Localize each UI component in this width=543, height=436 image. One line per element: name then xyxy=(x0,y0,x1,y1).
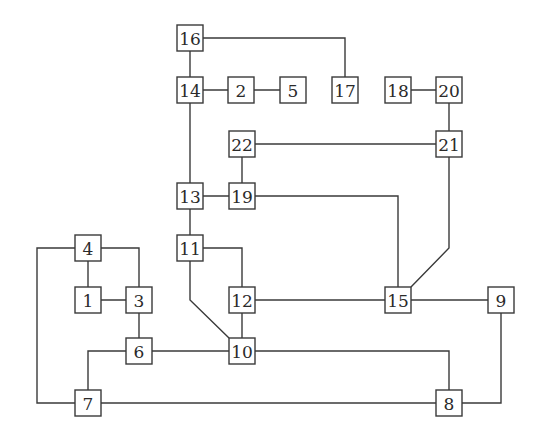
node-label: 14 xyxy=(179,81,201,101)
node-14: 14 xyxy=(177,77,203,103)
node-5: 5 xyxy=(280,77,306,103)
nodes-layer: 12345678910111213141516171819202122 xyxy=(75,25,514,416)
node-label: 5 xyxy=(288,81,299,101)
node-2: 2 xyxy=(228,77,254,103)
node-18: 18 xyxy=(385,77,411,103)
node-22: 22 xyxy=(229,131,255,157)
node-4: 4 xyxy=(75,235,101,261)
node-label: 18 xyxy=(387,81,409,101)
edge-21-15 xyxy=(411,144,449,287)
node-label: 20 xyxy=(438,81,460,101)
node-17: 17 xyxy=(332,77,358,103)
node-label: 21 xyxy=(438,135,460,155)
edge-9-8 xyxy=(449,300,501,403)
node-20: 20 xyxy=(436,77,462,103)
node-label: 19 xyxy=(231,187,253,207)
node-8: 8 xyxy=(436,390,462,416)
node-label: 2 xyxy=(236,81,247,101)
node-label: 6 xyxy=(134,342,145,362)
node-label: 9 xyxy=(496,291,507,311)
node-label: 15 xyxy=(387,291,409,311)
node-7: 7 xyxy=(75,390,101,416)
node-label: 13 xyxy=(179,187,201,207)
edge-19-15 xyxy=(242,196,398,300)
node-12: 12 xyxy=(229,287,255,313)
node-6: 6 xyxy=(126,338,152,364)
node-10: 10 xyxy=(229,338,255,364)
node-9: 9 xyxy=(488,287,514,313)
node-label: 16 xyxy=(179,29,201,49)
node-label: 8 xyxy=(444,394,455,414)
node-19: 19 xyxy=(229,183,255,209)
node-15: 15 xyxy=(385,287,411,313)
node-16: 16 xyxy=(177,25,203,51)
node-label: 7 xyxy=(83,394,94,414)
edge-16-17 xyxy=(190,38,345,90)
edge-4-7 xyxy=(37,248,88,403)
node-3: 3 xyxy=(126,287,152,313)
edges-layer xyxy=(37,38,501,403)
node-21: 21 xyxy=(436,131,462,157)
node-label: 10 xyxy=(231,342,253,362)
graph-diagram: 12345678910111213141516171819202122 xyxy=(0,0,543,436)
node-label: 17 xyxy=(334,81,356,101)
node-label: 3 xyxy=(134,291,145,311)
node-label: 1 xyxy=(83,291,94,311)
node-label: 22 xyxy=(231,135,253,155)
node-label: 12 xyxy=(231,291,253,311)
edge-10-8 xyxy=(242,351,449,403)
node-label: 11 xyxy=(179,239,201,259)
node-label: 4 xyxy=(83,239,94,259)
node-1: 1 xyxy=(75,287,101,313)
node-13: 13 xyxy=(177,183,203,209)
node-11: 11 xyxy=(177,235,203,261)
